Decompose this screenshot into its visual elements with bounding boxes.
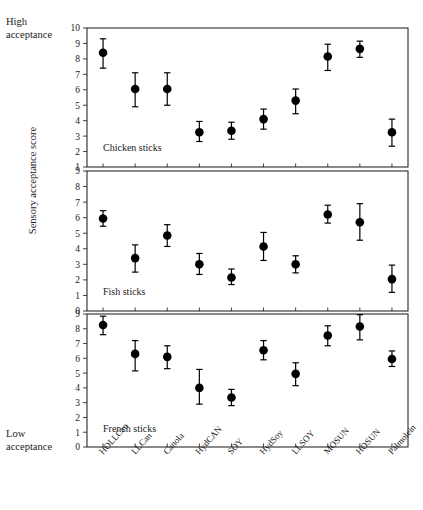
y-tick-label: 1	[75, 291, 80, 301]
data-point-HOSUN	[356, 204, 365, 241]
marker	[227, 393, 236, 402]
x-category-label: Palmolein	[386, 422, 418, 456]
data-point-HydCAN	[195, 121, 204, 141]
figure: High acceptance Low acceptance Sensory a…	[0, 0, 423, 510]
marker	[323, 331, 332, 340]
y-tick-label: 2	[75, 413, 80, 423]
data-point-HydSoy	[259, 341, 268, 360]
y-tick-label: 3	[75, 260, 80, 270]
panel-chicken-sticks: 12345678910Chicken sticks	[71, 23, 409, 172]
y-tick-label: 8	[75, 324, 80, 334]
y-tick-label: 6	[75, 213, 80, 223]
marker	[323, 210, 332, 219]
high-acceptance-line2: acceptance	[6, 29, 52, 42]
panel-label: Chicken sticks	[103, 142, 162, 153]
x-category-label: LLCan	[129, 430, 154, 456]
data-point-HydCAN	[195, 369, 204, 404]
data-point-Palmolein	[388, 265, 397, 292]
y-tick-label: 4	[75, 116, 80, 126]
data-point-HOSUN	[356, 315, 365, 340]
low-acceptance-annotation: Low acceptance	[6, 428, 52, 453]
y-tick-label: 5	[75, 229, 80, 239]
y-tick-label: 4	[75, 383, 80, 393]
data-point-HydSoy	[259, 109, 268, 129]
data-point-HOLLCan	[99, 211, 108, 227]
y-axis-title: Sensory acceptance score	[27, 101, 38, 261]
marker	[99, 48, 108, 57]
data-point-Canola	[163, 73, 172, 105]
y-tick-label: 7	[75, 70, 80, 80]
marker	[163, 85, 172, 94]
y-tick-label: 6	[75, 354, 80, 364]
data-point-Palmolein	[388, 119, 397, 146]
marker	[195, 128, 204, 137]
marker	[291, 96, 300, 105]
marker	[259, 242, 268, 251]
marker	[356, 322, 365, 331]
marker	[227, 126, 236, 135]
scatter-plot-canvas: 12345678910Chicken sticks0123456789Fish …	[0, 0, 423, 510]
marker	[99, 321, 108, 330]
marker	[291, 370, 300, 379]
high-acceptance-line1: High	[6, 16, 52, 29]
marker	[388, 128, 397, 137]
y-tick-label: 5	[75, 101, 80, 111]
panel-fish-sticks: 0123456789Fish sticks	[75, 166, 408, 316]
marker	[356, 45, 365, 54]
data-point-HOSUN	[356, 41, 365, 57]
x-category-label: HOSUN	[354, 426, 383, 456]
data-point-Canola	[163, 346, 172, 369]
marker	[388, 275, 397, 284]
y-tick-label: 7	[75, 339, 80, 349]
data-point-SOY	[227, 269, 236, 285]
x-category-label: SOY	[226, 436, 246, 456]
data-point-SOY	[227, 389, 236, 405]
data-point-LLSOY	[291, 363, 300, 386]
marker	[356, 218, 365, 227]
marker	[291, 260, 300, 269]
marker	[195, 260, 204, 269]
y-tick-label: 4	[75, 244, 80, 254]
marker	[163, 353, 172, 362]
marker	[131, 85, 140, 94]
y-tick-label: 3	[75, 132, 80, 142]
x-category-label: LLSOY	[290, 428, 317, 457]
marker	[99, 214, 108, 223]
low-acceptance-line1: Low	[6, 428, 52, 441]
data-point-SOY	[227, 122, 236, 139]
data-point-MOSUN	[323, 44, 332, 70]
data-point-Canola	[163, 225, 172, 247]
marker	[227, 273, 236, 282]
y-tick-label: 0	[75, 442, 80, 452]
x-category-label: MOSUN	[322, 425, 352, 456]
data-point-HydSoy	[259, 232, 268, 260]
data-point-MOSUN	[323, 326, 332, 346]
marker	[388, 355, 397, 364]
data-point-Palmolein	[388, 351, 397, 367]
y-tick-label: 9	[75, 39, 80, 49]
panel-label: Fish sticks	[103, 286, 146, 297]
y-tick-label: 8	[75, 54, 80, 64]
marker	[259, 346, 268, 355]
data-point-HydCAN	[195, 253, 204, 274]
data-point-HOLLCan	[99, 39, 108, 68]
data-point-LLSOY	[291, 256, 300, 273]
data-point-HOLLCan	[99, 316, 108, 334]
y-tick-label: 3	[75, 398, 80, 408]
low-acceptance-line2: acceptance	[6, 441, 52, 454]
y-tick-label: 6	[75, 85, 80, 95]
x-category-label: HydSoy	[258, 427, 286, 456]
marker	[131, 254, 140, 263]
y-tick-label: 9	[75, 166, 80, 176]
marker	[259, 115, 268, 124]
data-point-LLCan	[131, 341, 140, 371]
y-tick-label: 1	[75, 428, 80, 438]
marker	[323, 52, 332, 61]
data-point-LLSOY	[291, 89, 300, 114]
y-tick-label: 7	[75, 198, 80, 208]
y-tick-label: 2	[75, 275, 80, 285]
y-tick-label: 9	[75, 309, 80, 319]
y-tick-label: 2	[75, 147, 80, 157]
y-tick-label: 5	[75, 369, 80, 379]
y-tick-label: 8	[75, 182, 80, 192]
